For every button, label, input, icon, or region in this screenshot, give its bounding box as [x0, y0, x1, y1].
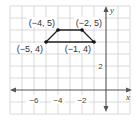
y-axis-label: y [109, 5, 114, 15]
coordinate-plane: −6 −4 −2 2 x y (−4, 5) (−2, 5) (−5, 4) (… [0, 0, 139, 125]
point-marker [80, 28, 84, 32]
point-marker [56, 28, 60, 32]
x-tick-label: −2 [77, 96, 87, 105]
point-label: (−1, 4) [65, 44, 91, 54]
x-axis-left-arrow-icon [10, 88, 16, 93]
x-tick-label: −6 [29, 96, 39, 105]
x-tick-label: −4 [53, 96, 63, 105]
point-label: (−5, 4) [17, 44, 43, 54]
point-label: (−4, 5) [29, 18, 55, 28]
y-axis-up-arrow-icon [104, 6, 109, 12]
point-label: (−2, 5) [76, 18, 102, 28]
x-axis-label: x [125, 92, 130, 102]
y-axis-down-arrow-icon [104, 106, 109, 112]
y-tick-label: 2 [98, 62, 103, 71]
